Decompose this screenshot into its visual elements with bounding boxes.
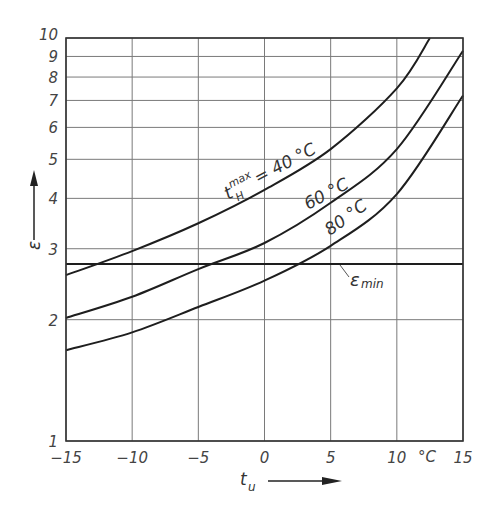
- x-axis-symbol: t: [240, 469, 248, 489]
- x-axis-unit: °C: [418, 448, 437, 466]
- emin-symbol: ε: [350, 269, 360, 290]
- y-tick-label: 3: [48, 241, 58, 259]
- x-tick-label: 5: [326, 449, 336, 467]
- y-tick-label: 4: [48, 190, 58, 208]
- x-axis-label: t u °C: [240, 448, 437, 494]
- grid: [66, 38, 463, 441]
- y-tick-label: 8: [48, 69, 58, 87]
- svg-text:max: max: [226, 168, 254, 191]
- chart: 12345678910 −15−10−5051015 ε t u °C t ma…: [0, 0, 493, 505]
- y-axis-symbol: ε: [24, 241, 44, 250]
- y-tick-label: 9: [48, 48, 58, 66]
- y-tick-label: 2: [48, 312, 58, 330]
- svg-text:H: H: [233, 189, 246, 204]
- x-axis-arrowhead-icon: [322, 477, 342, 485]
- y-axis-arrowhead-icon: [30, 170, 38, 186]
- x-tick-label: −10: [116, 449, 148, 467]
- x-tick-label: 0: [260, 449, 270, 467]
- x-tick-label: −15: [50, 449, 82, 467]
- y-axis-label: ε: [24, 170, 44, 250]
- curve-40c: [66, 38, 430, 275]
- y-tick-label: 7: [48, 92, 58, 110]
- emin-leader: [340, 265, 349, 277]
- y-tick-label: 10: [39, 26, 58, 44]
- emin-subscript: min: [361, 277, 384, 291]
- x-tick-label: 15: [453, 449, 472, 467]
- x-axis-ticks: −15−10−5051015: [50, 449, 472, 467]
- x-tick-label: −5: [187, 449, 209, 467]
- x-tick-label: 10: [387, 449, 406, 467]
- y-axis-ticks: 12345678910: [39, 26, 59, 451]
- x-axis-subscript: u: [248, 480, 256, 494]
- y-tick-label: 6: [48, 119, 58, 137]
- y-tick-label: 5: [48, 151, 58, 169]
